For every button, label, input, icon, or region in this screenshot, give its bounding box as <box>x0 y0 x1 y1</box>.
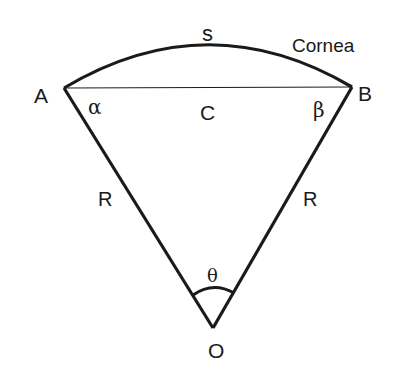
point-o-label: O <box>208 339 224 362</box>
radius-right-label: R <box>303 188 317 210</box>
point-a-label: A <box>34 84 48 107</box>
alpha-label: α <box>88 95 102 119</box>
cornea-geometry-diagram: A B s Cornea α C β R R θ O <box>0 0 398 392</box>
cornea-label: Cornea <box>292 35 355 56</box>
theta-angle-arc <box>193 287 234 295</box>
point-b-label: B <box>358 82 372 105</box>
beta-label: β <box>313 98 325 122</box>
arc-s-label: s <box>202 21 213 46</box>
chord-line <box>64 87 352 88</box>
radius-left-label: R <box>98 188 112 210</box>
chord-c-label: C <box>200 101 215 124</box>
radius-left-line <box>64 88 213 328</box>
theta-label: θ <box>207 265 218 286</box>
